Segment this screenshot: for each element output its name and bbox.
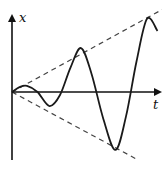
oscillation-diagram: x t [0, 0, 168, 174]
t-axis-label: t [153, 97, 159, 112]
x-axis-label: x [19, 10, 27, 25]
envelope-lines [12, 10, 162, 159]
oscillation-curve [12, 18, 158, 150]
